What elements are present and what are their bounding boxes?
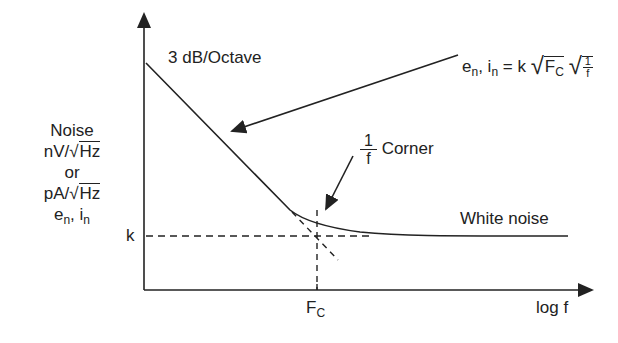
- slope-label: 3 dB/Octave: [168, 48, 262, 68]
- noise-equation: en, in = k √FC √1f: [462, 56, 593, 79]
- y-label-pa: pA/√Hz: [0, 183, 144, 204]
- equation-arrow: [232, 55, 458, 131]
- sqrt-icon: √: [69, 142, 78, 161]
- y-axis-arrow-icon: [137, 12, 151, 28]
- x-axis-label: log f: [536, 298, 568, 318]
- y-axis-label: Noise nV/√Hz or pA/√Hz en, in: [0, 120, 144, 225]
- sqrt-icon: √: [531, 52, 544, 79]
- white-noise-label: White noise: [460, 209, 549, 229]
- fc-label: FC: [306, 298, 325, 318]
- y-label-en-in: en, in: [0, 204, 144, 225]
- sqrt-icon: √: [569, 52, 582, 79]
- y-label-nv: nV/√Hz: [0, 141, 144, 162]
- sqrt-icon: √: [69, 184, 78, 203]
- corner-label: 1f Corner: [360, 132, 434, 167]
- corner-fraction: 1f: [360, 132, 377, 167]
- corner-arrow: [326, 156, 353, 209]
- x-axis-arrow-icon: [578, 283, 594, 297]
- y-label-or: or: [0, 162, 144, 183]
- y-label-noise: Noise: [0, 120, 144, 141]
- one-over-f-fraction: 1f: [583, 56, 593, 79]
- k-label: k: [126, 226, 135, 246]
